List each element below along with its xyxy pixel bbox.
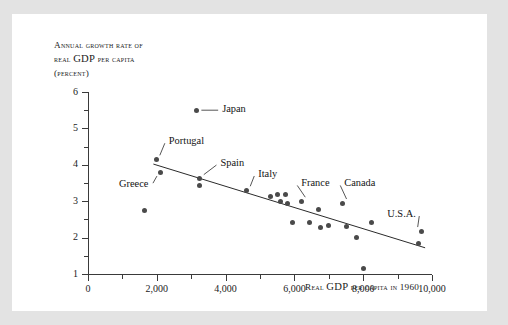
y-axis-title: Annual growth rate of real GDP per capit… xyxy=(54,39,274,80)
data-point xyxy=(369,220,374,225)
data-point xyxy=(416,241,421,246)
y-tick-label: 4 xyxy=(62,158,78,169)
data-point-italy xyxy=(244,188,249,193)
x-tick-label: 0 xyxy=(86,283,91,294)
data-point xyxy=(268,194,273,199)
annotation-france: France xyxy=(301,177,329,188)
data-point xyxy=(290,220,295,225)
leader-line-italy xyxy=(250,176,254,186)
data-point xyxy=(283,192,288,197)
x-tick-major xyxy=(226,275,227,281)
trend-line xyxy=(153,164,425,248)
annotation-greece: Greece xyxy=(119,178,148,189)
figure-panel: Annual growth rate of real GDP per capit… xyxy=(12,14,487,311)
data-point xyxy=(278,199,283,204)
y-axis-title-line-2: real GDP per capita xyxy=(54,52,274,66)
leader-line-greece xyxy=(153,176,157,183)
data-point-greece xyxy=(158,170,163,175)
x-tick-minor xyxy=(329,275,330,279)
data-point xyxy=(275,192,280,197)
data-point-france xyxy=(299,199,304,204)
y-axis-line xyxy=(88,92,89,275)
scatter-chart: Annual growth rate of real GDP per capit… xyxy=(12,14,487,311)
x-tick-minor xyxy=(191,275,192,279)
y-tick-minor xyxy=(84,256,88,257)
data-point-canada xyxy=(340,201,345,206)
y-tick-label: 3 xyxy=(62,195,78,206)
annotation-spain: Spain xyxy=(220,157,244,168)
data-point xyxy=(285,201,290,206)
data-point-usa xyxy=(419,229,424,234)
page-background: Annual growth rate of real GDP per capit… xyxy=(0,0,508,325)
leader-line-spain xyxy=(204,165,217,175)
x-tick-major xyxy=(432,275,433,281)
data-point-japan xyxy=(194,108,199,113)
data-point xyxy=(326,223,331,228)
data-point xyxy=(318,225,323,230)
annotation-italy: Italy xyxy=(258,168,277,179)
x-axis-title-pre: Real xyxy=(305,282,326,292)
y-axis-title-line-2-post: per capita xyxy=(95,54,135,64)
data-point xyxy=(361,266,366,271)
y-axis-title-line-1: Annual growth rate of xyxy=(54,39,274,52)
y-tick-label: 6 xyxy=(62,86,78,97)
x-tick-major xyxy=(157,275,158,281)
x-axis-title-gdp: GDP xyxy=(326,281,348,292)
data-point-spain xyxy=(197,176,202,181)
x-tick-minor xyxy=(260,275,261,279)
annotation-canada: Canada xyxy=(344,177,375,188)
x-tick-label: 6,000 xyxy=(283,283,306,294)
annotation-portugal: Portugal xyxy=(169,135,204,146)
y-tick-minor xyxy=(84,147,88,148)
x-tick-major xyxy=(363,275,364,281)
y-axis-title-line-3: (percent) xyxy=(54,67,274,80)
y-tick-major xyxy=(82,238,88,239)
x-tick-major xyxy=(294,275,295,281)
data-point xyxy=(354,235,359,240)
data-point xyxy=(142,208,147,213)
x-tick-major xyxy=(88,275,89,281)
y-tick-major xyxy=(82,201,88,202)
data-point xyxy=(307,220,312,225)
annotation-usa: U.S.A. xyxy=(387,208,416,219)
x-tick-label: 8,000 xyxy=(352,283,375,294)
annotation-japan: Japan xyxy=(222,103,246,114)
y-tick-minor xyxy=(84,183,88,184)
data-point xyxy=(197,183,202,188)
leader-line-portugal xyxy=(160,143,165,155)
x-tick-label: 2,000 xyxy=(146,283,169,294)
y-tick-label: 5 xyxy=(62,122,78,133)
leader-line-usa xyxy=(418,216,420,227)
y-axis-title-line-2-pre: real xyxy=(54,54,73,64)
y-tick-major xyxy=(82,92,88,93)
y-tick-major xyxy=(82,128,88,129)
x-tick-label: 10,000 xyxy=(418,283,446,294)
y-tick-label: 1 xyxy=(62,268,78,279)
data-point xyxy=(316,207,321,212)
data-point-portugal xyxy=(154,157,159,162)
y-tick-major xyxy=(82,165,88,166)
y-tick-label: 2 xyxy=(62,231,78,242)
y-tick-minor xyxy=(84,110,88,111)
data-point xyxy=(344,224,349,229)
x-tick-label: 4,000 xyxy=(214,283,237,294)
x-tick-minor xyxy=(122,275,123,279)
y-axis-title-gdp: GDP xyxy=(73,53,95,64)
y-tick-minor xyxy=(84,219,88,220)
x-tick-minor xyxy=(398,275,399,279)
